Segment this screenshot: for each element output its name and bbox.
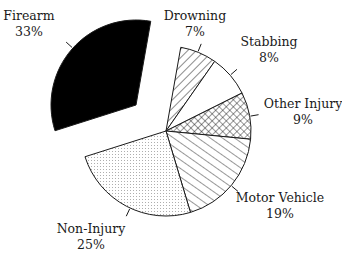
slice-label: Drowning <box>164 8 226 23</box>
slice-label: Non-Injury <box>57 221 127 236</box>
label-tick <box>66 42 72 47</box>
pie-slice-firearm <box>51 20 151 131</box>
slice-percent: 19% <box>266 206 294 221</box>
slice-label: Stabbing <box>240 34 297 49</box>
slice-percent: 8% <box>259 50 279 65</box>
slice-percent: 33% <box>15 24 43 39</box>
slice-percent: 9% <box>293 112 313 127</box>
slice-label: Other Injury <box>264 96 342 111</box>
label-tick <box>198 44 201 51</box>
slice-label: Motor Vehicle <box>236 190 325 205</box>
slice-label: Firearm <box>3 8 54 23</box>
slice-percent: 7% <box>185 24 205 39</box>
pie-chart-svg: Drowning7%Stabbing8%Other Injury9%Motor … <box>0 0 342 258</box>
pie-chart: Drowning7%Stabbing8%Other Injury9%Motor … <box>0 0 342 258</box>
label-tick <box>231 69 237 74</box>
slice-percent: 25% <box>77 237 105 252</box>
label-tick <box>251 115 259 116</box>
pie-slices <box>51 20 251 216</box>
label-tick <box>126 209 129 216</box>
